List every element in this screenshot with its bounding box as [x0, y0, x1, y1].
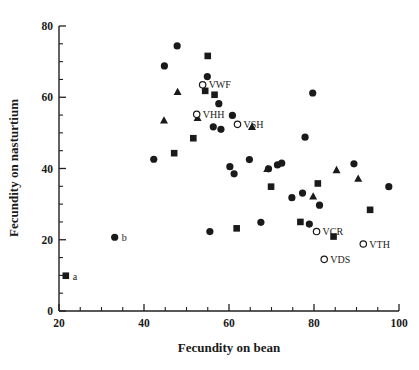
data-points-group	[63, 42, 393, 279]
data-point-square	[233, 225, 240, 232]
data-point-circle	[301, 134, 308, 141]
scatter-plot-svg: 20406080100020406080 baVWFVHHVSHVCRVTHVD…	[0, 0, 419, 370]
data-point-circle	[299, 189, 306, 196]
x-tick-label: 20	[53, 317, 65, 329]
data-point-open-circle	[360, 241, 366, 247]
data-point-square	[297, 219, 304, 226]
data-point-circle	[246, 156, 253, 163]
scatter-plot-figure: 20406080100020406080 baVWFVHHVSHVCRVTHVD…	[0, 0, 419, 370]
point-label-b: b	[122, 232, 127, 243]
data-point-circle	[215, 100, 222, 107]
data-point-circle	[210, 123, 217, 130]
data-point-circle	[111, 234, 118, 241]
data-point-circle	[306, 220, 313, 227]
y-axis-title: Fecundity on nasturtium	[6, 99, 21, 237]
data-point-circle	[206, 228, 213, 235]
data-point-circle	[278, 160, 285, 167]
data-point-square	[190, 135, 197, 142]
data-point-circle	[217, 126, 224, 133]
point-label-vwf: VWF	[209, 79, 232, 90]
tick-labels-group: 20406080100020406080	[42, 20, 408, 329]
point-label-vds: VDS	[330, 254, 350, 265]
x-tick-label: 40	[138, 317, 150, 329]
point-label-vcr: VCR	[323, 226, 344, 237]
data-point-square	[268, 183, 275, 190]
data-point-open-circle	[234, 121, 240, 127]
data-point-square	[63, 272, 70, 279]
data-point-circle	[385, 183, 392, 190]
y-tick-label: 20	[42, 234, 54, 246]
data-point-circle	[257, 219, 264, 226]
data-point-open-circle	[313, 228, 319, 234]
data-point-circle	[288, 194, 295, 201]
data-point-triangle	[160, 116, 168, 123]
data-point-triangle	[354, 174, 362, 181]
data-point-open-circle	[321, 256, 327, 262]
x-tick-label: 80	[308, 317, 320, 329]
data-point-circle	[316, 202, 323, 209]
point-label-vhh: VHH	[203, 109, 225, 120]
data-point-circle	[231, 170, 238, 177]
point-label-a: a	[73, 271, 78, 282]
y-tick-label: 80	[42, 20, 54, 32]
point-label-vth: VTH	[369, 239, 390, 250]
data-point-open-circle	[199, 82, 205, 88]
x-axis-title: Fecundity on bean	[178, 340, 281, 355]
point-label-vsh: VSH	[244, 119, 264, 130]
data-point-triangle	[333, 166, 341, 173]
y-tick-label: 0	[47, 305, 53, 317]
data-point-square	[315, 180, 322, 187]
data-point-triangle	[174, 88, 182, 95]
data-point-circle	[229, 112, 236, 119]
x-tick-label: 60	[223, 317, 235, 329]
y-tick-label: 60	[42, 91, 54, 103]
data-point-circle	[174, 42, 181, 49]
data-point-circle	[350, 160, 357, 167]
data-point-square	[367, 207, 374, 214]
data-point-triangle	[309, 192, 317, 199]
data-point-circle	[161, 62, 168, 69]
data-point-square	[204, 53, 211, 60]
x-tick-label: 100	[390, 317, 408, 329]
data-point-circle	[309, 89, 316, 96]
data-point-circle	[226, 163, 233, 170]
y-tick-label: 40	[42, 163, 54, 175]
data-point-square	[171, 150, 178, 157]
data-point-open-circle	[194, 111, 200, 117]
point-labels-group: baVWFVHHVSHVCRVTHVDS	[73, 79, 390, 281]
data-point-square	[211, 91, 218, 98]
data-point-circle	[150, 156, 157, 163]
